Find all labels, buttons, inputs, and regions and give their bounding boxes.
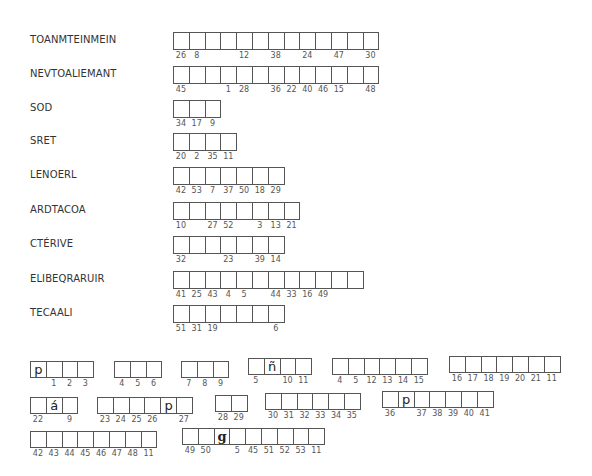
phrase-letter-box[interactable] — [395, 358, 412, 375]
letter-box[interactable] — [205, 271, 222, 289]
phrase-letter-box[interactable] — [46, 431, 63, 448]
phrase-letter-box[interactable] — [213, 361, 230, 378]
phrase-letter-box[interactable] — [496, 356, 513, 373]
phrase-letter-box[interactable] — [93, 431, 110, 448]
letter-box[interactable] — [220, 167, 237, 185]
letter-box[interactable] — [331, 271, 348, 289]
phrase-letter-box[interactable] — [308, 428, 325, 445]
letter-box[interactable] — [299, 32, 316, 50]
phrase-letter-box[interactable] — [364, 358, 381, 375]
letter-box[interactable] — [284, 66, 301, 84]
phrase-letter-box[interactable]: g — [214, 428, 231, 445]
letter-box[interactable] — [189, 133, 206, 151]
phrase-letter-box[interactable] — [62, 431, 79, 448]
letter-box[interactable] — [252, 66, 269, 84]
phrase-letter-box[interactable]: ñ — [264, 358, 281, 375]
letter-box[interactable] — [205, 100, 222, 118]
letter-box[interactable] — [220, 202, 237, 220]
phrase-letter-box[interactable] — [295, 358, 312, 375]
phrase-letter-box[interactable]: p — [160, 397, 177, 414]
letter-box[interactable] — [173, 100, 190, 118]
letter-box[interactable] — [268, 32, 285, 50]
phrase-letter-box[interactable] — [231, 395, 248, 412]
phrase-letter-box[interactable] — [181, 361, 198, 378]
letter-box[interactable] — [173, 66, 190, 84]
letter-box[interactable] — [205, 32, 222, 50]
phrase-letter-box[interactable] — [77, 361, 94, 378]
phrase-letter-box[interactable] — [229, 428, 246, 445]
letter-box[interactable] — [173, 236, 190, 254]
letter-box[interactable] — [173, 32, 190, 50]
letter-box[interactable] — [189, 66, 206, 84]
phrase-letter-box[interactable] — [348, 358, 365, 375]
phrase-letter-box[interactable] — [62, 361, 79, 378]
phrase-letter-box[interactable] — [144, 397, 161, 414]
letter-box[interactable] — [205, 66, 222, 84]
letter-box[interactable] — [236, 236, 253, 254]
letter-box[interactable] — [189, 100, 206, 118]
letter-box[interactable] — [205, 236, 222, 254]
phrase-letter-box[interactable] — [449, 356, 466, 373]
letter-box[interactable] — [315, 32, 332, 50]
letter-box[interactable] — [284, 271, 301, 289]
letter-box[interactable] — [363, 32, 380, 50]
letter-box[interactable] — [205, 305, 222, 323]
letter-box[interactable] — [189, 167, 206, 185]
phrase-letter-box[interactable] — [77, 431, 94, 448]
phrase-letter-box[interactable] — [129, 397, 146, 414]
letter-box[interactable] — [189, 202, 206, 220]
phrase-letter-box[interactable]: p — [30, 361, 47, 378]
phrase-letter-box[interactable] — [414, 391, 431, 408]
phrase-letter-box[interactable] — [215, 395, 232, 412]
letter-box[interactable] — [236, 167, 253, 185]
phrase-letter-box[interactable] — [130, 361, 147, 378]
phrase-letter-box[interactable] — [512, 356, 529, 373]
phrase-letter-box[interactable] — [332, 358, 349, 375]
phrase-letter-box[interactable] — [429, 391, 446, 408]
phrase-letter-box[interactable] — [182, 428, 199, 445]
letter-box[interactable] — [236, 202, 253, 220]
letter-box[interactable] — [315, 271, 332, 289]
letter-box[interactable] — [173, 305, 190, 323]
phrase-letter-box[interactable] — [528, 356, 545, 373]
letter-box[interactable] — [236, 271, 253, 289]
phrase-letter-box[interactable] — [477, 391, 494, 408]
phrase-letter-box[interactable] — [297, 393, 314, 410]
phrase-letter-box[interactable] — [411, 358, 428, 375]
phrase-letter-box[interactable] — [198, 428, 215, 445]
phrase-letter-box[interactable] — [465, 356, 482, 373]
phrase-letter-box[interactable]: á — [46, 397, 63, 414]
letter-box[interactable] — [299, 66, 316, 84]
letter-box[interactable] — [220, 305, 237, 323]
phrase-letter-box[interactable] — [245, 428, 262, 445]
letter-box[interactable] — [347, 32, 364, 50]
letter-box[interactable] — [189, 32, 206, 50]
phrase-letter-box[interactable] — [109, 431, 126, 448]
letter-box[interactable] — [173, 167, 190, 185]
letter-box[interactable] — [252, 167, 269, 185]
phrase-letter-box[interactable] — [379, 358, 396, 375]
phrase-letter-box[interactable] — [461, 391, 478, 408]
letter-box[interactable] — [236, 66, 253, 84]
letter-box[interactable] — [220, 271, 237, 289]
letter-box[interactable] — [205, 202, 222, 220]
phrase-letter-box[interactable] — [481, 356, 498, 373]
phrase-letter-box[interactable] — [293, 428, 310, 445]
phrase-letter-box[interactable] — [265, 393, 282, 410]
phrase-letter-box[interactable] — [97, 397, 114, 414]
letter-box[interactable] — [252, 236, 269, 254]
letter-box[interactable] — [299, 271, 316, 289]
letter-box[interactable] — [236, 305, 253, 323]
letter-box[interactable] — [268, 167, 285, 185]
letter-box[interactable] — [252, 32, 269, 50]
letter-box[interactable] — [268, 66, 285, 84]
letter-box[interactable] — [268, 202, 285, 220]
phrase-letter-box[interactable] — [30, 431, 47, 448]
phrase-letter-box[interactable] — [344, 393, 361, 410]
letter-box[interactable] — [268, 236, 285, 254]
letter-box[interactable] — [220, 133, 237, 151]
phrase-letter-box[interactable] — [445, 391, 462, 408]
phrase-letter-box[interactable] — [146, 361, 163, 378]
letter-box[interactable] — [284, 32, 301, 50]
letter-box[interactable] — [205, 167, 222, 185]
